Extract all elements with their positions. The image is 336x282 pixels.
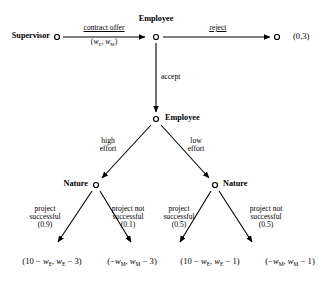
p3-second-var: w [214, 256, 220, 266]
node-nature-left [94, 183, 99, 188]
p3-first-const: 10 − [183, 256, 201, 266]
high-success-probability: (0.9) [29, 221, 60, 229]
action-label-contract-offer-terms: (wE, wM) [91, 38, 117, 46]
player-label-supervisor: Supervisor [12, 32, 50, 41]
node-supervisor [55, 35, 60, 40]
node-employee-2 [154, 117, 159, 122]
p2-close: ) [154, 256, 157, 266]
low-failure-probability: (0.5) [250, 221, 283, 229]
p1-close: ) [79, 256, 82, 266]
player-label-employee-2: Employee [165, 114, 200, 123]
p3-first-sub: E [207, 261, 210, 267]
chance-label-high-success: project successful (0.9) [29, 205, 60, 229]
p4-second-tail: − 1 [298, 256, 311, 266]
chance-label-high-failure: project not successful (0.1) [112, 205, 145, 229]
game-tree-diagram: Supervisor Employee Employee Nature Natu… [0, 0, 336, 282]
payoff-high-success: (10 − wE, wE − 3) [22, 257, 81, 266]
action-label-contract-offer: contract offer [84, 24, 125, 32]
payoff-low-success: (10 − wE, wE − 1) [180, 257, 239, 266]
p3-close: ) [237, 256, 240, 266]
p2-second-sub: M [136, 261, 141, 267]
paren-close: ) [115, 37, 118, 46]
player-label-employee-1: Employee [139, 15, 174, 24]
action-label-reject: reject [210, 24, 227, 32]
player-label-nature-right: Nature [223, 180, 247, 189]
high-effort-line-2: effort [100, 145, 117, 153]
p3-second-tail: − 1 [223, 256, 236, 266]
p4-second-sub: M [294, 261, 299, 267]
payoff-low-failure: (−wM, wM − 1) [265, 257, 315, 266]
p4-close: ) [312, 256, 315, 266]
p1-second-sub: E [62, 261, 65, 267]
p1-second-var: w [56, 256, 62, 266]
p2-second-tail: − 3 [140, 256, 153, 266]
action-label-high-effort: high effort [100, 137, 117, 153]
p3-second-sub: E [220, 261, 223, 267]
node-employee-1 [154, 35, 159, 40]
payoff-reject: (0,3) [293, 32, 309, 41]
chance-label-low-success: project successful (0.5) [163, 205, 194, 229]
wage-employee-var: w [93, 37, 98, 46]
payoff-high-failure: (−wM, wM − 3) [107, 257, 157, 266]
node-terminal-reject [275, 35, 280, 40]
wage-manager-subscript: M [110, 42, 114, 47]
p2-first-sub: M [121, 261, 126, 267]
p1-first-sub: E [49, 261, 52, 267]
p1-first-const: 10 − [25, 256, 43, 266]
low-effort-line-2: effort [188, 145, 205, 153]
edge-low-failure [219, 191, 252, 242]
action-label-accept: accept [161, 73, 180, 81]
tree-edges-layer [0, 0, 336, 282]
node-nature-right [213, 183, 218, 188]
p1-second-tail: − 3 [65, 256, 78, 266]
high-failure-probability: (0.1) [112, 221, 145, 229]
p4-first-sub: M [279, 261, 284, 267]
edge-high-success [58, 191, 92, 242]
chance-label-low-failure: project not successful (0.5) [250, 205, 283, 229]
wage-employee-subscript: E [98, 42, 101, 47]
action-label-low-effort: low effort [188, 137, 205, 153]
low-success-probability: (0.5) [163, 221, 194, 229]
player-label-nature-left: Nature [64, 180, 88, 189]
